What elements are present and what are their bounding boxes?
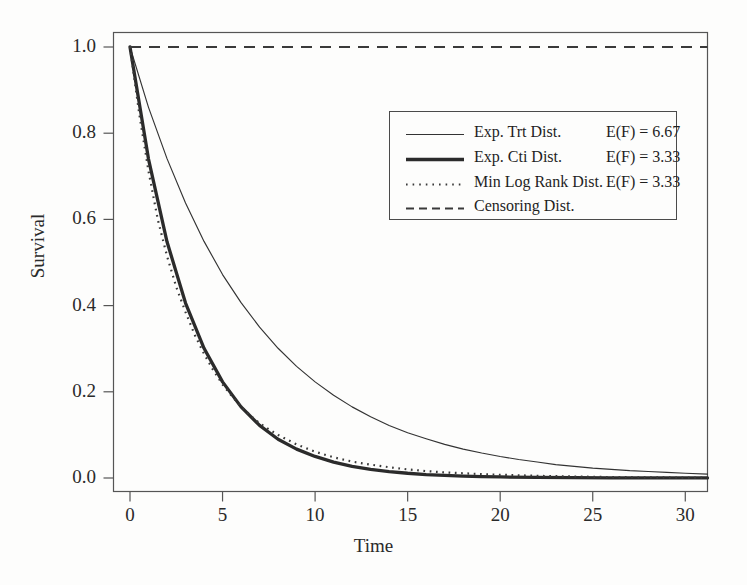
legend-value: E(F) = 3.33 [606,148,680,166]
x-tick-label: 30 [655,504,715,526]
y-tick-label: 1.0 [36,35,96,57]
y-axis-ticks [104,47,114,478]
y-tick-label: 0.8 [36,121,96,143]
x-axis-ticks [130,492,685,502]
y-tick-label: 0.2 [36,380,96,402]
x-axis-title: Time [0,535,747,557]
dashed-line-icon [404,195,466,222]
solid-thin-line-icon [404,121,466,148]
legend-row: Censoring Dist. [390,195,678,222]
legend-box: Exp. Trt Dist. E(F) = 6.67 Exp. Cti Dist… [389,111,677,220]
dotted-line-icon [404,171,466,198]
legend-value: E(F) = 3.33 [606,173,680,191]
legend-value: E(F) = 6.67 [606,123,680,141]
x-tick-label: 15 [378,504,438,526]
y-axis-title: Survival [27,186,49,306]
survival-curve-figure: 0.00.20.40.60.81.0 051015202530 Survival… [0,0,747,585]
legend-label: Min Log Rank Dist. [474,173,603,191]
x-tick-label: 0 [100,504,160,526]
x-tick-label: 25 [563,504,623,526]
legend-row: Exp. Trt Dist. E(F) = 6.67 [390,121,678,148]
plot-frame [114,33,708,492]
legend-row: Min Log Rank Dist. E(F) = 3.33 [390,171,678,198]
y-tick-label: 0.0 [36,466,96,488]
legend-row: Exp. Cti Dist. E(F) = 3.33 [390,146,678,173]
legend-label: Censoring Dist. [474,197,574,215]
legend-label: Exp. Trt Dist. [474,123,561,141]
x-tick-label: 5 [193,504,253,526]
legend-label: Exp. Cti Dist. [474,148,562,166]
x-tick-label: 20 [470,504,530,526]
plot-canvas [0,0,747,585]
solid-thick-line-icon [404,146,466,173]
x-tick-label: 10 [285,504,345,526]
